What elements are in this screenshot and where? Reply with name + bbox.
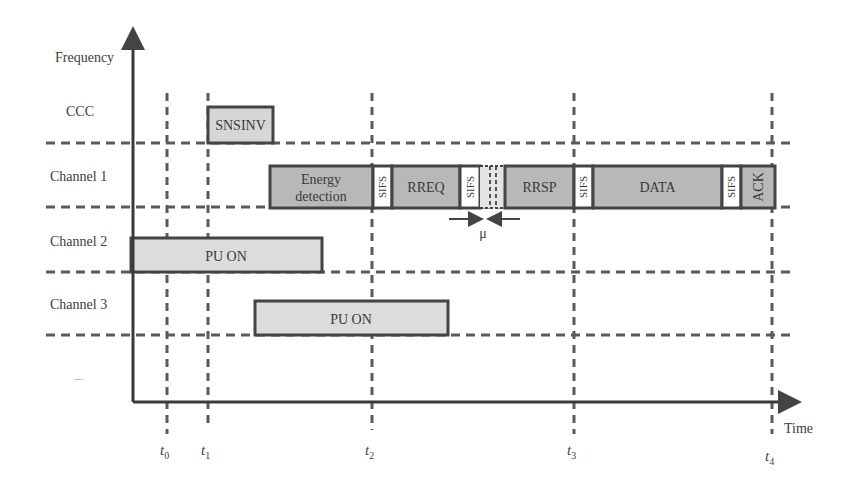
row-label-more: .... — [74, 372, 83, 382]
tick-t2: t2 — [365, 442, 374, 461]
tick-t1: t1 — [201, 442, 210, 461]
row-label-channel3: Channel 3 — [50, 297, 107, 312]
timing-diagram: SNSINV Energy detection SIFS RREQ SIFS R… — [0, 0, 858, 492]
sifs-4-label: SIFS — [725, 176, 737, 198]
energy-label-line1: Energy — [301, 172, 341, 187]
tick-t3: t3 — [567, 442, 576, 461]
row-label-channel2: Channel 2 — [50, 234, 107, 249]
sifs-2-label: SIFS — [464, 176, 476, 198]
row-label-ccc: CCC — [66, 104, 94, 119]
ack-label: ACK — [751, 172, 766, 202]
tick-t4: t4 — [765, 448, 774, 467]
channel2-pu-on-label: PU ON — [205, 249, 247, 264]
snsinv-label: SNSINV — [215, 118, 266, 133]
sifs-3-label: SIFS — [577, 176, 589, 198]
channel1-sequence: Energy detection SIFS RREQ SIFS RRSP SIF… — [270, 166, 775, 208]
sifs-1-label: SIFS — [376, 176, 388, 198]
row-label-channel1: Channel 1 — [50, 169, 107, 184]
block-channel2-pu-on: PU ON — [131, 238, 322, 272]
block-channel3-pu-on: PU ON — [255, 301, 448, 335]
mu-label: μ — [479, 226, 487, 241]
rrsp-label: RRSP — [522, 180, 556, 195]
energy-label-line2: detection — [295, 189, 346, 204]
tick-t0: t0 — [160, 442, 169, 461]
mu-annotation: μ — [449, 219, 520, 241]
y-axis-label: Frequency — [55, 50, 114, 65]
data-label: DATA — [639, 180, 676, 195]
block-snsinv: SNSINV — [208, 107, 273, 143]
time-tick-labels: t0 t1 t2 t3 t4 — [160, 442, 774, 467]
x-axis-label: Time — [784, 421, 813, 436]
rreq-label: RREQ — [407, 180, 444, 195]
channel3-pu-on-label: PU ON — [330, 312, 372, 327]
mu-gap — [480, 166, 505, 208]
